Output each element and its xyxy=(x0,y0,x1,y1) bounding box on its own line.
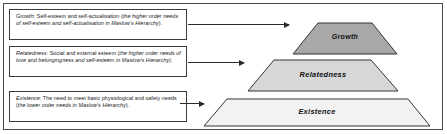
connector-arrow-relatedness xyxy=(188,62,244,63)
description-tail-growth: ). xyxy=(159,20,162,26)
description-emphasis-existence: the lower order needs in Maslow's Hierar… xyxy=(18,102,126,108)
description-term-growth: Growth: xyxy=(16,13,35,19)
description-term-existence: Existence: xyxy=(16,95,41,101)
pyramid-tier-growth: Growth xyxy=(292,22,398,55)
connector-arrow-growth xyxy=(188,24,289,25)
pyramid-tier-existence: Existence xyxy=(203,98,431,127)
pyramid-tier-relatedness: Relatedness xyxy=(247,59,399,92)
description-term-relatedness: Relatedness: xyxy=(16,50,48,56)
description-tail-existence: ). xyxy=(126,102,129,108)
pyramid-tier-label-relatedness: Relatedness xyxy=(247,70,399,79)
description-box-existence: Existence: The need to meet basic physio… xyxy=(9,91,187,122)
description-box-growth: Growth: Self-esteem and self-actualisati… xyxy=(9,9,187,40)
description-box-relatedness: Relatedness: Social and external esteem … xyxy=(9,46,187,77)
pyramid-tier-label-existence: Existence xyxy=(203,107,431,116)
pyramid-tier-label-growth: Growth xyxy=(292,33,398,40)
description-body-relatedness: Social and external esteem ( xyxy=(48,50,119,56)
description-tail-relatedness: ). xyxy=(169,57,172,63)
description-body-growth: Self-esteem and self-actualisation ( xyxy=(35,13,123,19)
arrowhead-icon xyxy=(284,22,290,28)
erg-theory-diagram: Growth: Self-esteem and self-actualisati… xyxy=(0,0,447,134)
connector-arrow-existence xyxy=(180,103,204,104)
arrowhead-icon xyxy=(239,60,245,66)
